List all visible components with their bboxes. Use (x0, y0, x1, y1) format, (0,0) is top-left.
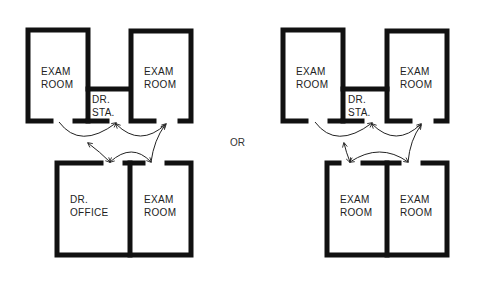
room-label-line2: ROOM (400, 79, 432, 90)
exam-room-top-right: EXAM ROOM (131, 31, 191, 121)
room-label-line2: ROOM (144, 207, 176, 218)
exam-room-top-right: EXAM ROOM (387, 31, 447, 121)
room-label-line1: DR. (92, 94, 110, 105)
room-label-line1: EXAM (340, 194, 370, 205)
dr-station: DR. STA. (343, 89, 387, 121)
room-label-line1: EXAM (41, 66, 71, 77)
bottom-rooms-block: EXAM ROOM EXAM ROOM (327, 163, 447, 255)
room-label-line2: OFFICE (70, 207, 108, 218)
room-label-line2: STA. (92, 107, 115, 118)
room-label-line1: EXAM (400, 194, 430, 205)
room-label-line1: DR. (70, 194, 88, 205)
or-separator: OR (230, 137, 245, 148)
room-label-line1: EXAM (400, 66, 430, 77)
circulation-arrows (59, 122, 166, 162)
room-label-line2: ROOM (340, 207, 372, 218)
room-label-line2: ROOM (400, 207, 432, 218)
room-label-line1: EXAM (144, 194, 174, 205)
floor-plan-diagram: EXAM ROOM DR. STA. EXAM ROOM DR. OFFICE … (0, 0, 477, 283)
exam-room-top-left: EXAM ROOM (283, 30, 343, 121)
room-label-line1: EXAM (144, 66, 174, 77)
room-label-line1: EXAM (296, 66, 326, 77)
room-label-line2: ROOM (296, 79, 328, 90)
dr-station: DR. STA. (88, 89, 130, 121)
layout-option-b: EXAM ROOM DR. STA. EXAM ROOM EXAM ROOM E… (283, 30, 447, 255)
layout-option-a: EXAM ROOM DR. STA. EXAM ROOM DR. OFFICE … (28, 30, 191, 255)
bottom-rooms-block: DR. OFFICE EXAM ROOM (57, 163, 191, 255)
exam-room-top-left: EXAM ROOM (28, 30, 88, 121)
room-label-line2: ROOM (144, 79, 176, 90)
room-label-line2: STA. (348, 107, 371, 118)
room-label-line2: ROOM (41, 79, 73, 90)
circulation-arrows (315, 122, 421, 162)
room-label-line1: DR. (348, 94, 366, 105)
